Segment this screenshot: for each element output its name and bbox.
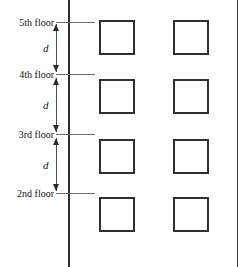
arrow-up-icon xyxy=(53,24,59,31)
floor-line xyxy=(56,22,95,23)
floor-label-text: 5th floor xyxy=(19,17,54,28)
arrow-down-icon xyxy=(53,65,59,72)
floor-label-text: 4th floor xyxy=(19,69,54,80)
window-r4-c1 xyxy=(99,197,135,232)
floor-label-1: 5th floor xyxy=(0,17,54,28)
window-r3-c1 xyxy=(99,139,135,174)
dimension-label: d xyxy=(43,159,49,170)
figure-right-border xyxy=(237,0,238,267)
dimension-label: d xyxy=(43,43,49,54)
arrow-down-icon xyxy=(53,184,59,191)
floor-label-text: 2nd floor xyxy=(17,188,54,199)
floor-line xyxy=(56,193,95,194)
window-r1-c2 xyxy=(173,20,209,55)
floor-label-2: 4th floor xyxy=(0,69,54,80)
window-r1-c1 xyxy=(99,20,135,55)
floor-line xyxy=(56,74,95,75)
building-elevation-diagram: 5th floor4th floor3rd floor2nd floorddd xyxy=(0,0,244,267)
window-r2-c1 xyxy=(99,79,135,114)
floor-label-text: 3rd floor xyxy=(19,129,54,140)
dimension-label: d xyxy=(43,100,49,111)
window-r4-c2 xyxy=(173,197,209,232)
arrow-up-icon xyxy=(53,138,59,145)
dimension-shaft xyxy=(56,78,57,132)
arrow-down-icon xyxy=(53,125,59,132)
floor-label-3: 3rd floor xyxy=(0,129,54,140)
window-r2-c2 xyxy=(173,79,209,114)
floor-line xyxy=(56,134,95,135)
floor-label-4: 2nd floor xyxy=(0,188,54,199)
arrow-up-icon xyxy=(53,78,59,85)
window-r3-c2 xyxy=(173,139,209,174)
